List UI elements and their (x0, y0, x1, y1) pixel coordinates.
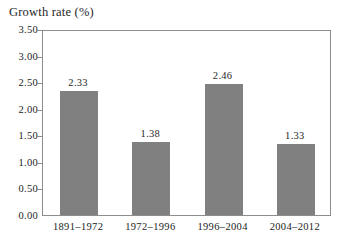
bar (277, 144, 315, 215)
bar (60, 91, 98, 215)
y-axis-tick-label: 0.50 (0, 184, 38, 194)
y-axis-tick-label: 1.50 (0, 131, 38, 141)
bar-value-label: 1.33 (265, 130, 325, 141)
bar (205, 84, 243, 215)
x-axis-tick-label: 2004–2012 (251, 221, 339, 233)
growth-rate-bar-chart: Growth rate (%) 0.000.501.001.502.002.50… (0, 0, 347, 246)
y-axis-tick-label: 2.50 (0, 78, 38, 88)
plot-area (42, 30, 331, 216)
y-axis-tick-label: 3.00 (0, 52, 38, 62)
chart-axis-title: Growth rate (%) (9, 5, 94, 20)
bar-value-label: 1.38 (120, 128, 180, 139)
y-axis-tick-label: 2.00 (0, 105, 38, 115)
bar-value-label: 2.46 (193, 70, 253, 81)
bar-value-label: 2.33 (48, 77, 108, 88)
bar (132, 142, 170, 215)
y-axis-tick-label: 1.00 (0, 158, 38, 168)
y-axis-tick-label: 3.50 (0, 25, 38, 35)
y-axis-tick-label: 0.00 (0, 211, 38, 221)
